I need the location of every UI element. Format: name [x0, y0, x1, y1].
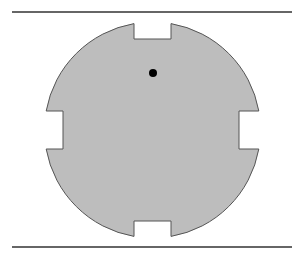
notched-disk — [46, 24, 259, 237]
diagram-canvas — [0, 0, 305, 254]
marker-dot — [149, 69, 157, 77]
